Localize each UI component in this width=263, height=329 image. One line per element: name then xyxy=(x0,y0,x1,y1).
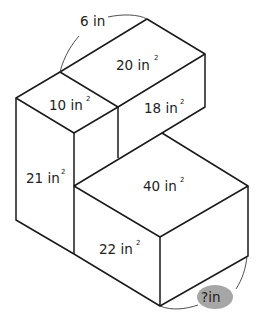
superscript: 2 xyxy=(86,95,90,103)
face-label-tall-side: 21 in xyxy=(26,170,60,186)
dimension-top-label: 6 in xyxy=(80,13,105,29)
superscript: 2 xyxy=(180,98,184,106)
superscript: 2 xyxy=(180,176,184,184)
face-label-upper-top: 20 in xyxy=(116,57,150,73)
lower-front-prism xyxy=(74,133,248,306)
dimension-bottom-label: ?in xyxy=(201,289,220,305)
face-label-upper-front: 18 in xyxy=(144,100,178,116)
face-label-lower-front: 22 in xyxy=(99,241,133,257)
face-label-tall-top: 10 in xyxy=(49,97,83,113)
composite-prism-diagram: 6 in ?in 20 in 2 18 in 2 10 in 2 21 in 2… xyxy=(0,0,263,329)
face-label-lower-top: 40 in xyxy=(143,178,177,194)
superscript: 2 xyxy=(136,239,140,247)
superscript: 2 xyxy=(154,54,158,62)
superscript: 2 xyxy=(61,168,65,176)
